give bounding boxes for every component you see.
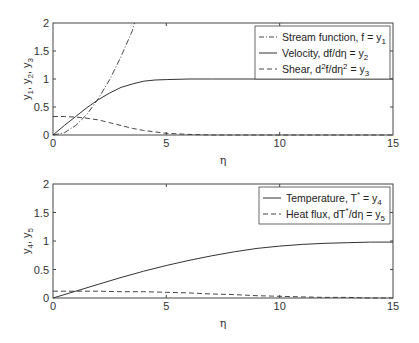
plot-bottom: 0 5 10 15 0 0.5 1 1.5 2 η y4, y5 Tempera… [20,178,399,330]
ylabel-bottom: y4, y5 [20,227,35,254]
xtick-0: 0 [50,300,56,312]
series-velocity [53,79,393,135]
xtick-5: 5 [163,137,169,149]
xtick-15: 15 [387,300,399,312]
ytick-0: 0 [43,292,49,304]
xtick-0: 0 [50,137,56,149]
series-heat-flux [53,291,393,298]
ytick-1-5: 1.5 [34,207,49,219]
figure: 0 5 10 15 0 0.5 1 1.5 2 η y1, y2, y3 Str… [0,0,419,343]
xlabel-eta: η [220,317,227,330]
xtick-5: 5 [163,300,169,312]
ytick-1: 1 [43,235,49,247]
xtick-15: 15 [387,137,399,149]
series-shear [53,117,393,136]
series-stream-function [53,23,135,135]
ytick-2: 2 [43,178,49,190]
ytick-1-5: 1.5 [34,45,49,57]
ytick-1: 1 [43,73,49,85]
plot-top: 0 5 10 15 0 0.5 1 1.5 2 η y1, y2, y3 Str… [20,17,399,167]
ytick-0: 0 [43,129,49,141]
legend-bottom: Temperature, T* = y4 Heat flux, dT*/dη =… [259,187,390,224]
ytick-0-5: 0.5 [34,264,49,276]
xlabel-eta: η [220,154,227,167]
ytick-2: 2 [43,17,49,29]
ylabel-top: y1, y2, y3 [20,57,35,100]
xtick-10: 10 [274,300,286,312]
ytick-0-5: 0.5 [34,101,49,113]
series-temperature [53,242,393,298]
xtick-10: 10 [274,137,286,149]
legend-top: Stream function, f = y1 Velocity, df/dη … [255,26,390,79]
